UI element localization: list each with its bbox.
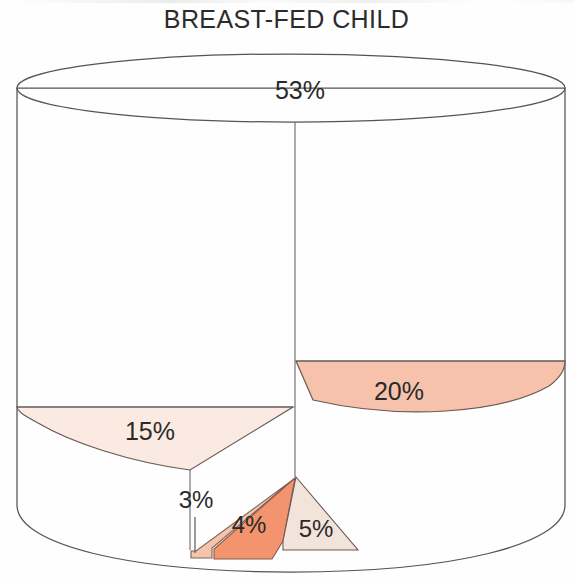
slice-20-shape (296, 361, 565, 412)
slice-15-label: 15% (125, 417, 175, 445)
slice-20-label: 20% (374, 377, 424, 405)
slice-53-label: 53% (275, 76, 325, 104)
slice-4-label: 4% (232, 511, 267, 538)
slice-3-label: 3% (179, 486, 214, 513)
pie-chart-graphic: 20% 15% 3% 4% 5% 53% (0, 0, 573, 581)
slice-5-label: 5% (299, 515, 334, 542)
chart-figure: BREAST-FED CHILD 20% 15% (0, 0, 573, 581)
slice-20 (296, 361, 565, 412)
